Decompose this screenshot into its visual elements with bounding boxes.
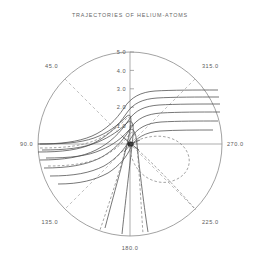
angle-label-180: 180.0: [122, 245, 139, 251]
angle-label-270: 270.0: [227, 141, 244, 147]
radial-tick-label-3: 3.0: [117, 86, 126, 92]
radial-tick-label-4: 4.0: [117, 68, 126, 74]
trajectory-7: [40, 115, 131, 228]
angle-label-135: 135.0: [42, 219, 59, 225]
radial-tick-label-5: 5.0: [117, 49, 126, 55]
angle-label-90: 90.0: [20, 141, 33, 147]
trajectory-8: [42, 121, 133, 234]
trajectory-5: [50, 121, 218, 176]
trajectory-10: [40, 117, 130, 230]
trajectory-11: [48, 132, 143, 234]
polar-plot-canvas: 1.0 2.0 3.0 4.0 5.0 45.0 90.0 135.0 180.…: [0, 0, 260, 263]
polar-trajectory-figure: TRAJECTORIES OF HELIUM-ATOMS 1.0 2.0 3.0…: [0, 0, 260, 263]
angle-label-45: 45.0: [45, 63, 58, 69]
angle-label-315: 315.0: [202, 63, 219, 69]
angle-label-225: 225.0: [202, 219, 219, 225]
trajectory-group-solid-bottom: [40, 115, 148, 234]
trajectory-4: [44, 112, 220, 168]
